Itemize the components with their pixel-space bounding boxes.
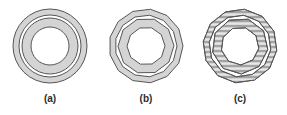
panel-b-polygon-rings [110, 9, 183, 82]
panel-a-circle-rings [13, 9, 87, 83]
panel-label-a: (a) [35, 93, 65, 105]
ring-inner-band [22, 18, 78, 74]
panel-c-striped-polygon-rings [201, 7, 279, 85]
ring-inner-band [118, 19, 174, 73]
panel-label-c: (c) [225, 93, 255, 105]
panel-label-b: (b) [131, 93, 161, 105]
